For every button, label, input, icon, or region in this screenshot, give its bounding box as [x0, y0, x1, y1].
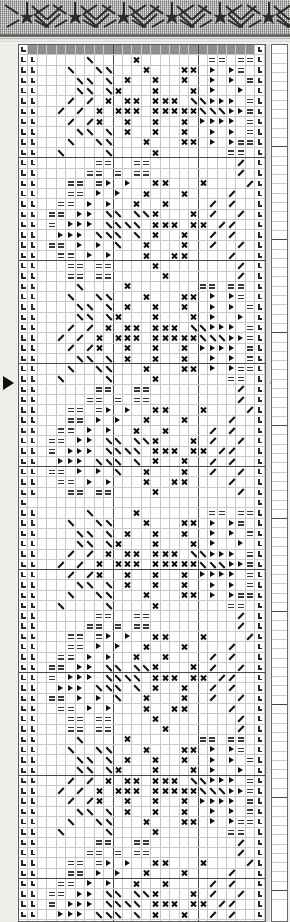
chart-cell-empty[interactable] [189, 395, 198, 405]
chart-cell-x[interactable] [179, 909, 188, 919]
chart-cell-empty[interactable] [66, 384, 75, 394]
chart-cell-empty[interactable] [160, 189, 169, 199]
chart-cell-empty[interactable] [104, 55, 113, 65]
chart-cell-empty[interactable] [37, 858, 46, 868]
chart-cell-x[interactable] [179, 580, 188, 590]
chart-cell-c[interactable] [255, 477, 265, 487]
chart-cell-eq[interactable] [236, 827, 245, 837]
chart-cell-empty[interactable] [217, 642, 226, 652]
chart-cell-empty[interactable] [151, 199, 160, 209]
chart-cell-empty[interactable] [160, 117, 169, 127]
chart-cell-empty[interactable] [47, 137, 56, 147]
adjacent-chart-row[interactable] [272, 361, 287, 370]
chart-cell-empty[interactable] [217, 652, 226, 662]
chart-cell-eq[interactable] [104, 487, 113, 497]
chart-cell-n[interactable] [236, 611, 245, 621]
chart-cell-empty[interactable] [113, 601, 122, 611]
chart-cell-x[interactable] [151, 86, 160, 96]
chart-cell-empty[interactable] [226, 209, 235, 219]
chart-cell-c[interactable] [28, 487, 37, 497]
chart-cell-empty[interactable] [217, 868, 226, 878]
chart-cell-eq[interactable] [94, 837, 103, 847]
adjacent-chart-row[interactable] [272, 64, 287, 73]
chart-cell-empty[interactable] [217, 477, 226, 487]
chart-cell-empty[interactable] [141, 673, 150, 683]
chart-cell-empty[interactable] [151, 817, 160, 827]
chart-cell-empty[interactable] [47, 425, 56, 435]
chart-cell-empty[interactable] [104, 734, 113, 744]
chart-cell-empty[interactable] [132, 137, 141, 147]
chart-cell-t[interactable] [208, 343, 217, 353]
chart-cell-t[interactable] [208, 580, 217, 590]
chart-cell-empty[interactable] [47, 127, 56, 137]
chart-cell-n[interactable] [226, 220, 235, 230]
chart-cell-empty[interactable] [245, 909, 254, 919]
chart-cell-t[interactable] [75, 899, 84, 909]
chart-cell-empty[interactable] [37, 570, 46, 580]
chart-cell-x[interactable] [170, 333, 179, 343]
chart-cell-x[interactable] [141, 467, 150, 477]
chart-cell-empty[interactable] [170, 178, 179, 188]
chart-cell-x[interactable] [122, 570, 131, 580]
chart-cell-c[interactable] [28, 271, 37, 281]
chart-cell-empty[interactable] [151, 848, 160, 858]
chart-cell-empty[interactable] [113, 528, 122, 538]
chart-cell-eq[interactable] [208, 508, 217, 518]
chart-cell-empty[interactable] [179, 662, 188, 672]
chart-cell-c[interactable] [19, 343, 28, 353]
chart-cell-t[interactable] [104, 250, 113, 260]
chart-cell-t[interactable] [236, 539, 245, 549]
adjacent-chart-row[interactable] [272, 138, 287, 147]
chart-cell-empty[interactable] [47, 86, 56, 96]
chart-cell-empty[interactable] [160, 889, 169, 899]
chart-cell-empty[interactable] [122, 45, 131, 55]
chart-cell-empty[interactable] [170, 868, 179, 878]
chart-cell-c[interactable] [19, 436, 28, 446]
chart-cell-empty[interactable] [189, 477, 198, 487]
chart-cell-x[interactable] [151, 683, 160, 693]
chart-cell-x[interactable] [198, 405, 207, 415]
chart-cell-eq[interactable] [104, 837, 113, 847]
chart-cell-empty[interactable] [160, 714, 169, 724]
chart-cell-empty[interactable] [217, 714, 226, 724]
chart-cell-c[interactable] [255, 487, 265, 497]
chart-cell-b[interactable] [75, 281, 84, 291]
chart-cell-c[interactable] [255, 580, 265, 590]
chart-cell-x[interactable] [170, 776, 179, 786]
chart-cell-empty[interactable] [56, 642, 65, 652]
adjacent-chart-row[interactable] [272, 240, 287, 249]
chart-cell-eq[interactable] [245, 96, 254, 106]
chart-cell-n[interactable] [226, 879, 235, 889]
chart-cell-x[interactable] [113, 786, 122, 796]
chart-cell-empty[interactable] [151, 137, 160, 147]
chart-cell-empty[interactable] [113, 837, 122, 847]
chart-cell-empty[interactable] [217, 755, 226, 765]
chart-cell-t[interactable] [226, 776, 235, 786]
chart-cell-x[interactable] [179, 230, 188, 240]
chart-cell-empty[interactable] [198, 889, 207, 899]
adjacent-chart-row[interactable] [272, 45, 287, 54]
chart-cell-b[interactable] [208, 333, 217, 343]
chart-cell-empty[interactable] [122, 642, 131, 652]
chart-cell-empty[interactable] [179, 168, 188, 178]
chart-cell-empty[interactable] [37, 755, 46, 765]
chart-cell-n[interactable] [236, 714, 245, 724]
adjacent-chart-row[interactable] [272, 389, 287, 398]
chart-cell-x[interactable] [122, 580, 131, 590]
chart-cell-empty[interactable] [37, 127, 46, 137]
chart-cell-x[interactable] [141, 415, 150, 425]
chart-cell-empty[interactable] [198, 456, 207, 466]
chart-cell-c[interactable] [28, 899, 37, 909]
chart-cell-b[interactable] [75, 353, 84, 363]
chart-cell-empty[interactable] [198, 137, 207, 147]
chart-cell-t[interactable] [75, 662, 84, 672]
chart-cell-empty[interactable] [198, 147, 207, 157]
chart-cell-x[interactable] [179, 65, 188, 75]
adjacent-chart-row[interactable] [272, 752, 287, 761]
chart-cell-x[interactable] [141, 704, 150, 714]
chart-cell-empty[interactable] [170, 827, 179, 837]
chart-cell-empty[interactable] [217, 395, 226, 405]
chart-cell-empty[interactable] [226, 837, 235, 847]
chart-cell-empty[interactable] [132, 281, 141, 291]
chart-cell-empty[interactable] [198, 353, 207, 363]
